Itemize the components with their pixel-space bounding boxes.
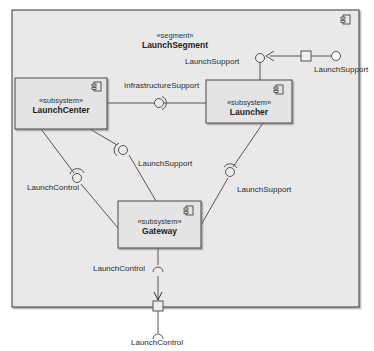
launch-support-provided-ball[interactable] (332, 52, 341, 61)
label-launch-support-launcher-gateway: LaunchSupport (237, 186, 291, 194)
gateway-stereotype: «subsystem» (118, 218, 201, 226)
gateway-name: Gateway (118, 227, 201, 236)
port-launch-control[interactable] (153, 301, 163, 311)
port-launch-support[interactable] (301, 51, 311, 61)
label-launch-support-inner: LaunchSupport (185, 58, 239, 66)
label-launch-control-center-gateway: LaunchControl (27, 184, 79, 192)
label-launch-control-gateway-outer: LaunchControl (131, 339, 183, 347)
diagram-canvas (0, 0, 374, 351)
segment-stereotype: «segment» (130, 32, 220, 40)
label-launch-support-outer: LaunchSupport (314, 66, 368, 74)
launch-center-name: LaunchCenter (15, 106, 107, 115)
segment-name: LaunchSegment (120, 41, 230, 50)
launch-center-stereotype: «subsystem» (15, 97, 107, 105)
label-infrastructure-support: InfrastructureSupport (124, 82, 199, 90)
label-launch-control-gateway-inner: LaunchControl (93, 265, 145, 273)
launcher-stereotype: «subsystem» (206, 99, 292, 107)
launcher-name: Launcher (206, 108, 292, 117)
label-launch-support-center-gateway: LaunchSupport (138, 160, 192, 168)
